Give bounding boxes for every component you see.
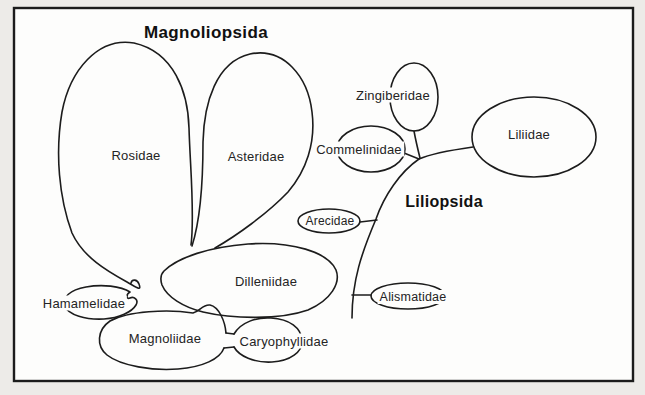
taxonomy-diagram: Magnoliopsida Liliopsida Rosidae Asterid…: [0, 0, 645, 395]
commelinidae-label: Commelinidae: [314, 142, 404, 157]
zingiberidae-label: Zingiberidae: [354, 88, 432, 103]
figure-border: [14, 8, 633, 381]
liliidae-label: Liliidae: [508, 127, 550, 142]
magnoliopsida-title: Magnoliopsida: [144, 23, 268, 43]
rosidae-label: Rosidae: [111, 148, 160, 163]
alismatidae-label: Alismatidae: [378, 290, 449, 304]
caryophyllidae-label: Caryophyllidae: [238, 334, 331, 349]
arecidae-label: Arecidae: [306, 214, 355, 228]
hamamelidae-label: Hamamelidae: [41, 296, 127, 311]
asteridae-label: Asteridae: [228, 149, 285, 164]
dilleniidae-label: Dilleniidae: [235, 274, 297, 289]
liliopsida-title: Liliopsida: [405, 193, 483, 211]
magnoliidae-label: Magnoliidae: [129, 331, 201, 346]
